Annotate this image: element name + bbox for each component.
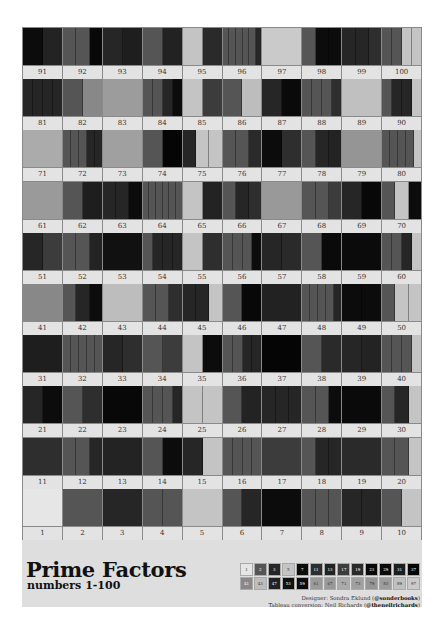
number-cell-98: 98 <box>302 28 342 79</box>
factor-segment-3 <box>316 130 329 167</box>
factor-segment-19 <box>282 233 301 270</box>
number-cell-56: 56 <box>223 233 263 284</box>
grid-row: 12345678910 <box>23 489 422 540</box>
factor-segment-5 <box>183 233 203 270</box>
legend-prime-1: 1 <box>240 563 253 576</box>
number-label: 42 <box>63 322 102 335</box>
factor-bar <box>382 489 421 527</box>
number-label: 79 <box>342 168 381 181</box>
factor-segment-3 <box>262 386 275 423</box>
legend-row-2: 41434753596167717379838997 <box>240 577 420 590</box>
number-cell-66: 66 <box>223 182 263 233</box>
factor-segment-31 <box>123 28 142 65</box>
factor-segment-2 <box>76 438 89 475</box>
factor-bar <box>382 335 421 373</box>
factor-segment-89 <box>342 79 381 116</box>
factor-segment-3 <box>289 386 301 423</box>
number-cell-40: 40 <box>382 335 422 386</box>
legend-prime-47: 47 <box>268 577 281 590</box>
factor-segment-3 <box>316 438 329 475</box>
number-cell-41: 41 <box>23 284 63 335</box>
factor-segment-2 <box>223 182 236 219</box>
number-cell-53: 53 <box>103 233 143 284</box>
number-cell-65: 65 <box>183 182 223 233</box>
factor-segment-3 <box>90 438 102 475</box>
number-label: 97 <box>262 66 301 79</box>
number-label: 46 <box>223 322 262 335</box>
factor-segment-2 <box>156 182 163 219</box>
legend-prime-13: 13 <box>324 563 337 576</box>
factor-segment-2 <box>243 438 253 475</box>
factor-segment-11 <box>23 438 62 475</box>
number-cell-100: 100 <box>382 28 422 79</box>
number-label: 87 <box>262 117 301 130</box>
factor-segment-79 <box>342 130 381 167</box>
factor-bar <box>63 284 102 322</box>
factor-segment-5 <box>402 489 421 526</box>
number-cell-61: 61 <box>23 182 63 233</box>
factor-segment-2 <box>223 489 243 526</box>
factor-bar <box>63 386 102 424</box>
factor-bar <box>382 79 421 117</box>
grid-row: 51525354555657585960 <box>23 233 422 284</box>
number-cell-58: 58 <box>302 233 342 284</box>
factor-bar <box>143 28 182 66</box>
factor-bar <box>183 233 222 271</box>
factor-segment-3 <box>103 182 116 219</box>
factor-segment-17 <box>163 335 182 372</box>
number-label: 92 <box>63 66 102 79</box>
number-cell-11: 11 <box>23 438 63 489</box>
factor-segment-2 <box>95 335 102 372</box>
factor-segment-2 <box>382 233 392 270</box>
factor-segment-2 <box>382 182 395 219</box>
factor-segment-2 <box>143 335 163 372</box>
number-cell-45: 45 <box>183 284 223 335</box>
factor-segment-3 <box>342 28 355 65</box>
factor-bar <box>262 438 301 476</box>
number-cell-5: 5 <box>183 489 223 540</box>
number-cell-63: 63 <box>103 182 143 233</box>
factor-segment-2 <box>390 130 398 167</box>
factor-bar <box>63 335 102 373</box>
factor-segment-67 <box>262 182 301 219</box>
number-label: 27 <box>262 424 301 437</box>
number-cell-37: 37 <box>262 335 302 386</box>
factor-segment-2 <box>143 233 153 270</box>
factor-segment-5 <box>412 79 421 116</box>
legend-prime-89: 89 <box>393 577 406 590</box>
factor-segment-2 <box>63 386 83 423</box>
number-cell-13: 13 <box>103 438 143 489</box>
factor-bar <box>302 130 341 168</box>
number-label: 91 <box>23 66 62 79</box>
factor-bar <box>63 182 102 220</box>
factor-bar <box>183 28 222 66</box>
number-label: 11 <box>23 476 62 489</box>
number-label: 51 <box>23 271 62 284</box>
factor-segment-2 <box>302 284 310 321</box>
factor-segment-73 <box>103 130 142 167</box>
number-label: 43 <box>103 322 142 335</box>
factor-segment-3 <box>342 182 362 219</box>
number-cell-39: 39 <box>342 335 382 386</box>
factor-segment-2 <box>71 130 79 167</box>
factor-segment-2 <box>402 335 412 372</box>
number-cell-23: 23 <box>103 386 143 437</box>
factor-segment-2 <box>71 335 79 372</box>
factor-segment-2 <box>143 438 163 475</box>
factor-segment-3 <box>23 233 43 270</box>
number-label: 93 <box>103 66 142 79</box>
factor-bar <box>223 489 262 527</box>
factor-bar <box>262 284 301 322</box>
number-cell-47: 47 <box>262 284 302 335</box>
number-label: 15 <box>183 476 222 489</box>
number-label: 47 <box>262 322 301 335</box>
factor-bar <box>143 335 182 373</box>
factor-segment-83 <box>103 79 142 116</box>
number-label: 90 <box>382 117 421 130</box>
number-cell-3: 3 <box>103 489 143 540</box>
number-label: 55 <box>183 271 222 284</box>
factor-segment-2 <box>329 489 341 526</box>
number-label: 58 <box>302 271 341 284</box>
number-label: 64 <box>143 220 182 233</box>
legend-prime-71: 71 <box>337 577 350 590</box>
